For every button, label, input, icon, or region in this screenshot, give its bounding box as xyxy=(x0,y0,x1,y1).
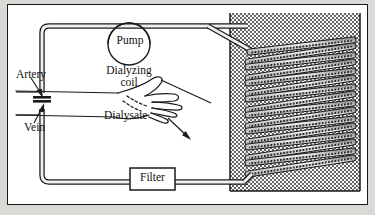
diagram-stage: Pump Artery Vein Filter Dialyzing coil D… xyxy=(8,5,367,204)
dialysate-leader-arrow xyxy=(168,118,190,139)
dialysate-label: Dialysate xyxy=(104,110,147,122)
dialyzing-coil xyxy=(244,40,353,182)
artery-label: Artery xyxy=(16,69,46,81)
dialyzing-coil-label-line2: coil xyxy=(120,76,137,88)
figure-page: Pump Artery Vein Filter Dialyzing coil D… xyxy=(0,0,375,215)
figure-frame: Pump Artery Vein Filter Dialyzing coil D… xyxy=(7,4,368,205)
pump-label: Pump xyxy=(110,35,150,47)
dialyzing-coil-label-line1: Dialyzing xyxy=(106,64,151,76)
dialysis-diagram xyxy=(8,5,369,206)
dialyzing-coil-leader xyxy=(161,80,211,103)
dialyzing-coil-label: Dialyzing coil xyxy=(96,65,162,88)
filter-label: Filter xyxy=(130,172,175,184)
vessel-connections xyxy=(16,92,51,115)
vein-label: Vein xyxy=(24,122,45,134)
